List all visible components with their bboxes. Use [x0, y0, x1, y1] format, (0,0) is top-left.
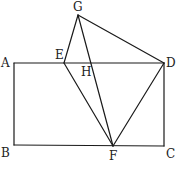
point-label-b: B	[1, 146, 10, 160]
segment-DF	[113, 63, 164, 146]
point-label-g: G	[73, 0, 83, 14]
segment-GF	[78, 15, 113, 146]
point-label-a: A	[0, 56, 10, 70]
segment-GD	[78, 15, 164, 63]
point-label-f: F	[109, 149, 117, 163]
segment-GE	[64, 15, 78, 63]
point-label-c: C	[166, 147, 175, 161]
point-label-e: E	[55, 48, 64, 62]
point-label-d: D	[166, 56, 176, 70]
point-label-h: H	[81, 65, 91, 79]
segment-BC	[14, 145, 164, 146]
geometry-figure: A B C D E F G H	[0, 0, 183, 172]
